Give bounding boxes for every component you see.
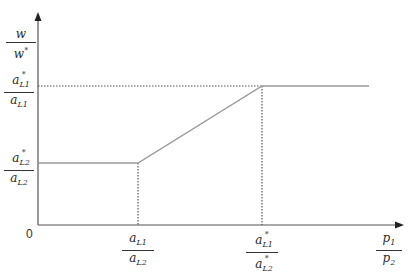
y-tick-low: aL2* aL2 — [4, 148, 34, 190]
origin-label: 0 — [26, 227, 33, 241]
y-axis-label: w w* — [6, 28, 36, 61]
wage-curve — [38, 86, 369, 163]
x-axis-label: p1 p2 — [376, 232, 402, 270]
y-axis-arrow-icon — [35, 12, 42, 21]
x-tick-left: aL1 aL2 — [122, 232, 154, 270]
y-tick-high: aL1* aL1 — [4, 70, 34, 112]
x-axis-arrow-icon — [395, 222, 404, 229]
x-tick-right: aL1* aL2* — [246, 230, 278, 275]
y-axis-label-num: w — [14, 28, 28, 41]
y-axis-label-den: w* — [12, 44, 30, 61]
